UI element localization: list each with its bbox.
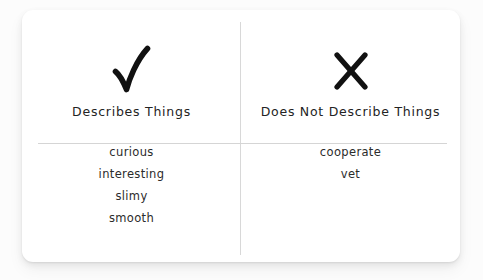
column-header-does-not-describe-things: Does Not Describe Things [261,104,441,120]
column-header-describes-things: Describes Things [72,104,191,120]
sorting-chart-card: Describes Things curious interesting sli… [22,10,460,262]
word-list-describes-things: curious interesting slimy smooth [99,141,165,229]
cross-icon [328,43,374,97]
list-item: curious [109,141,153,163]
list-item: interesting [99,163,165,185]
column-does-not-describe-things: Does Not Describe Things cooperate vet [241,10,460,262]
checkmark-icon [109,43,155,97]
page-background: Describes Things curious interesting sli… [0,0,483,280]
word-list-does-not-describe-things: cooperate vet [320,141,381,185]
column-describes-things: Describes Things curious interesting sli… [22,10,241,262]
list-item: vet [341,163,360,185]
list-item: cooperate [320,141,381,163]
columns-container: Describes Things curious interesting sli… [22,10,460,262]
list-item: smooth [109,207,154,229]
list-item: slimy [115,185,147,207]
